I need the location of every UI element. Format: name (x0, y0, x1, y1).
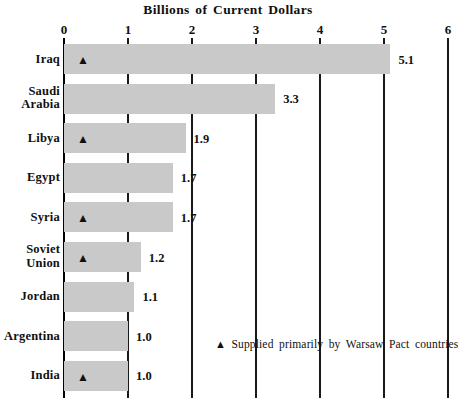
bar-row: India▲1.0 (0, 361, 456, 391)
bar-row: Jordan1.1 (0, 282, 456, 312)
legend-triangle-icon: ▲ (215, 338, 231, 350)
page-footer-smudge (0, 400, 456, 407)
warsaw-pact-triangle-icon: ▲ (77, 252, 89, 264)
category-label-line1: India (31, 368, 61, 382)
category-label-line1: Soviet (26, 242, 60, 256)
x-tick-5: 5 (381, 22, 388, 38)
bar-row: Iraq▲5.1 (0, 44, 456, 74)
category-label: Jordan (0, 290, 60, 304)
warsaw-pact-triangle-icon: ▲ (77, 133, 89, 145)
bar-row: SaudiArabia3.3 (0, 84, 456, 114)
category-label: Syria (0, 211, 60, 225)
bar (64, 84, 275, 114)
bar-row: Syria▲1.7 (0, 202, 456, 232)
bar-value-label: 1.2 (149, 251, 165, 266)
warsaw-pact-triangle-icon: ▲ (77, 212, 89, 224)
category-label-line2: Arabia (0, 98, 60, 112)
bar-value-label: 1.0 (136, 330, 152, 345)
warsaw-pact-triangle-icon: ▲ (77, 371, 89, 383)
bar-value-label: 1.7 (181, 211, 197, 226)
category-label-line1: Jordan (21, 289, 60, 303)
category-label-line1: Argentina (4, 329, 60, 343)
category-label-line2: Union (0, 257, 60, 271)
warsaw-pact-triangle-icon: ▲ (77, 54, 89, 66)
x-tick-2: 2 (189, 22, 196, 38)
bar (64, 242, 141, 272)
category-label-line1: Syria (31, 210, 60, 224)
category-label: India (0, 369, 60, 383)
category-label: SovietUnion (0, 243, 60, 270)
bar (64, 44, 390, 74)
bar-value-label: 3.3 (283, 92, 299, 107)
x-tick-6: 6 (445, 22, 452, 38)
bar-row: Libya▲1.9 (0, 123, 456, 153)
bar (64, 361, 128, 391)
x-tick-0: 0 (61, 22, 68, 38)
category-label: SaudiArabia (0, 85, 60, 112)
bar-value-label: 1.0 (136, 369, 152, 384)
bar-row: Egypt1.7 (0, 163, 456, 193)
bar (64, 163, 173, 193)
legend-entry: ▲ Supplied primarily by Warsaw Pact coun… (215, 338, 458, 350)
category-label: Egypt (0, 171, 60, 185)
category-label: Libya (0, 132, 60, 146)
bar-value-label: 1.9 (194, 132, 210, 147)
x-tick-3: 3 (253, 22, 260, 38)
category-label-line1: Saudi (28, 84, 60, 98)
legend-label: Supplied primarily by Warsaw Pact countr… (231, 338, 458, 350)
bar-value-label: 1.7 (181, 171, 197, 186)
bar-row: SovietUnion▲1.2 (0, 242, 456, 272)
bar (64, 321, 128, 351)
category-label-line1: Libya (28, 131, 60, 145)
bar-value-label: 5.1 (398, 53, 414, 68)
category-label-line1: Iraq (36, 52, 60, 66)
category-label: Argentina (0, 330, 60, 344)
bar-value-label: 1.1 (142, 290, 158, 305)
category-label: Iraq (0, 53, 60, 67)
bar (64, 282, 134, 312)
category-label-line1: Egypt (27, 170, 60, 184)
x-tick-1: 1 (125, 22, 132, 38)
x-tick-4: 4 (317, 22, 324, 38)
